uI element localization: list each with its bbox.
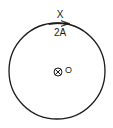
current-label: 2A	[54, 27, 67, 38]
point-x-label: X	[57, 9, 64, 20]
into-page-icon	[54, 68, 62, 76]
current-arrow-icon	[49, 21, 70, 27]
loop-diagram: X 2A O	[0, 0, 113, 128]
center-o-label: O	[65, 65, 72, 75]
